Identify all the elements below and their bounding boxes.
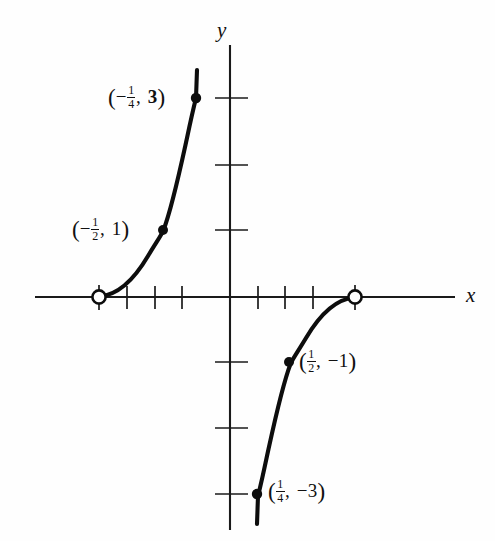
paren-open: ( <box>268 479 276 504</box>
label-comma: , <box>316 350 323 371</box>
fraction-numerator: 1 <box>307 348 315 360</box>
fraction-one-half: 12 <box>307 348 315 374</box>
minus-sign: − <box>116 86 127 107</box>
paren-open: ( <box>108 85 116 110</box>
minus-sign: − <box>80 218 91 239</box>
fraction-numerator: 1 <box>91 216 99 228</box>
label-value: −1 <box>328 350 349 371</box>
fraction-numerator: 1 <box>276 478 284 490</box>
point-label-mid-left: (−12, 1) <box>72 216 129 242</box>
x-axis-label: x <box>466 283 475 308</box>
fraction-denominator: 2 <box>91 230 99 242</box>
label-comma: , <box>285 480 292 501</box>
fraction-denominator: 2 <box>307 362 315 374</box>
paren-close: ) <box>121 217 129 242</box>
point-mid-right-marker <box>284 357 294 367</box>
paren-close: ) <box>317 479 325 504</box>
paren-close: ) <box>348 349 356 374</box>
label-comma: , <box>136 86 143 107</box>
fraction-one-quarter: 14 <box>276 478 284 504</box>
point-label-mid-right: (12, −1) <box>299 348 356 374</box>
open-endpoint-right-marker <box>348 290 361 303</box>
label-comma: , <box>100 218 107 239</box>
paren-close: ) <box>157 85 165 110</box>
fraction-denominator: 4 <box>276 492 284 504</box>
plot-canvas <box>0 0 495 541</box>
point-upper-left-marker <box>191 93 201 103</box>
axes-group <box>35 45 455 530</box>
fraction-numerator: 1 <box>127 84 135 96</box>
paren-open: ( <box>72 217 80 242</box>
fraction-one-quarter: 14 <box>127 84 135 110</box>
fraction-denominator: 4 <box>127 98 135 110</box>
y-axis-label: y <box>217 18 226 43</box>
graph-figure: y x (−14, 3) (−12, 1) (12, −1) (14, −3) <box>0 0 495 541</box>
open-endpoint-left-marker <box>92 290 105 303</box>
label-value: −3 <box>297 480 318 501</box>
point-lower-right-marker <box>252 489 262 499</box>
point-label-upper-left: (−14, 3) <box>108 84 165 110</box>
label-value: 3 <box>148 86 158 107</box>
point-label-lower-right: (14, −3) <box>268 478 325 504</box>
point-mid-left-marker <box>158 225 168 235</box>
fraction-one-half: 12 <box>91 216 99 242</box>
paren-open: ( <box>299 349 307 374</box>
label-value: 1 <box>112 218 122 239</box>
